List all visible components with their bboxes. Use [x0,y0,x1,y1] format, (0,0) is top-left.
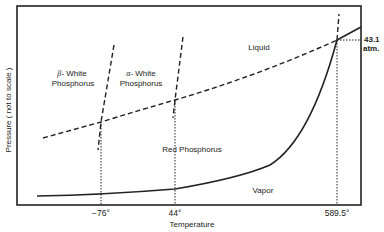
white-phosphorus-vapor-curve [43,40,337,138]
x-tick-589: 589.5° [325,208,350,218]
red-liquid-boundary [337,14,339,40]
red-phosphorus-label: Red Phosphorus [162,145,222,154]
beta-white-label-line2: Phosphorus [52,79,95,88]
liquid-label: Liquid [248,43,269,52]
triple-point-pressure-value: 43.1 [364,35,380,44]
x-tick-minus76: −76° [92,208,110,218]
vapor-label: Vapor [253,186,274,195]
beta-alpha-boundary [98,45,114,150]
alpha-liquid-boundary [173,37,183,118]
x-axis-label: Temperature [170,220,215,229]
y-axis-label: Pressure ( not to scale ) [4,67,13,152]
alpha-white-label: α- White [126,69,156,78]
plot-frame [17,6,361,205]
x-tick-44: 44° [169,208,182,218]
alpha-white-label-line2: Phosphorus [120,79,163,88]
beta-white-label: β- White [56,69,87,78]
triple-point-pressure-unit: atm. [363,44,379,53]
red-phosphorus-vapor-curve [37,40,337,196]
phase-diagram: β- White Phosphorus α- White Phosphorus … [0,0,384,232]
liquid-vapor-curve [337,27,361,40]
